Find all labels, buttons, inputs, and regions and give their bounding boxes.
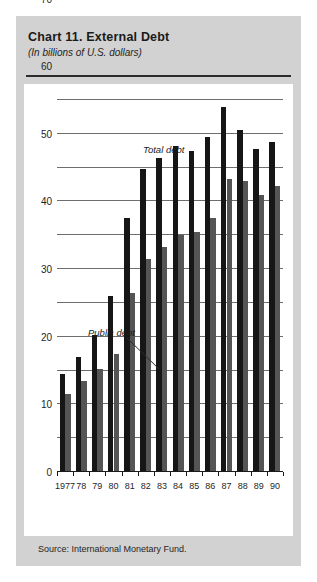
bar-public-debt [210,218,216,472]
bar-public-debt [65,394,71,472]
x-axis-tick-label: 1977 [55,481,75,491]
public-debt-leader-line [127,338,161,371]
x-axis-tick-label: 80 [108,481,118,491]
chart-figure: Chart 11. External Debt (In billions of … [16,16,301,566]
bar-public-debt [178,235,184,472]
x-axis-tick-label: 81 [125,481,135,491]
x-axis-tick-label: 84 [173,481,183,491]
gridline: 70 [57,234,283,235]
bar-public-debt [114,354,120,472]
bar-public-debt [243,181,249,472]
x-axis-tick-label: 86 [205,481,215,491]
x-axis-tick [235,472,236,476]
y-axis-tick-label: 50 [41,128,52,139]
x-axis-tick [89,472,90,476]
source-note: Source: International Monetary Fund. [38,544,187,554]
x-axis-tick [170,472,171,476]
gridline: 100 [57,133,283,134]
plot-panel: 0102030405060708090100110 19777879808182… [24,84,293,536]
gridline: 110 [57,99,283,100]
y-axis-tick-label: 60 [41,61,52,72]
x-axis-tick-label: 79 [92,481,102,491]
x-axis-tick-label: 89 [254,481,264,491]
chart-header: Chart 11. External Debt (In billions of … [28,30,289,58]
x-axis-tick [122,472,123,476]
y-axis-tick-label: 40 [41,196,52,207]
y-axis-tick-label: 20 [41,331,52,342]
x-axis-tick [57,472,58,476]
x-axis-tick [154,472,155,476]
x-axis-tick-label: 88 [238,481,248,491]
plot-area: 0102030405060708090100110 19777879808182… [57,100,283,472]
x-axis-tick-label: 85 [189,481,199,491]
x-axis-tick-label: 90 [270,481,280,491]
gridline: 60 [57,268,283,269]
x-axis-tick-label: 83 [157,481,167,491]
chart-title: Chart 11. External Debt [28,30,289,44]
x-axis-tick [105,472,106,476]
y-axis-tick-label: 30 [41,264,52,275]
bar-public-debt [275,186,281,472]
y-axis-tick-label: 70 [41,0,52,4]
bar-public-debt [259,195,265,472]
x-axis-tick-label: 78 [76,481,86,491]
gridline: 90 [57,167,283,168]
y-axis-tick-label: 10 [41,399,52,410]
x-axis-tick [186,472,187,476]
x-axis-tick [218,472,219,476]
x-axis-tick [283,472,284,476]
public-debt-annotation: Public debt [88,327,135,338]
x-axis-tick-label: 82 [141,481,151,491]
chart-subtitle: (In billions of U.S. dollars) [28,47,289,58]
bar-public-debt [227,179,233,472]
gridline: 50 [57,302,283,303]
x-axis-tick-label: 87 [221,481,231,491]
bar-public-debt [81,381,87,472]
x-axis-tick [73,472,74,476]
bar-public-debt [162,247,168,472]
header-divider [26,75,291,77]
gridline: 80 [57,200,283,201]
bar-public-debt [97,369,103,472]
bar-public-debt [194,232,200,472]
x-axis-tick [267,472,268,476]
x-axis-tick [251,472,252,476]
x-axis-tick [138,472,139,476]
bar-public-debt [130,293,136,472]
y-axis-tick-label: 0 [46,467,52,478]
total-debt-annotation: Total debt [143,144,184,155]
x-axis-tick [202,472,203,476]
